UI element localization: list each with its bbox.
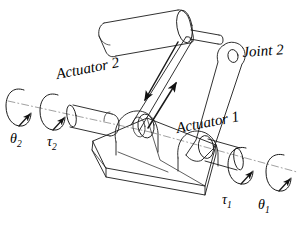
right-shaft [205, 139, 245, 171]
label-joint-2: Joint 2 [242, 41, 284, 61]
payload-cylinder [99, 9, 195, 57]
tau-2-subscript: 2 [52, 142, 57, 152]
left-shaft [65, 104, 119, 136]
label-tau-2: τ2 [47, 134, 57, 152]
joint-2-hole [227, 49, 239, 64]
upper-shaft [190, 30, 223, 44]
right-bearing-boss [178, 131, 218, 171]
tau2-rotation-arrow [40, 94, 65, 130]
label-tau-1: τ1 [222, 192, 232, 210]
mechanism-diagram: Actuator 2 Actuator 1 Joint 2 θ2 τ2 τ1 θ… [0, 0, 305, 232]
theta-2-symbol: θ [10, 131, 17, 146]
tau1-rotation-arrow [228, 147, 253, 184]
theta2-rotation-arrow [6, 89, 31, 126]
theta1-rotation-arrow [266, 154, 291, 191]
theta-1-symbol: θ [258, 197, 265, 212]
label-theta-2: θ2 [10, 131, 22, 149]
tau-1-subscript: 1 [227, 200, 232, 210]
axis-2-centerline [8, 101, 150, 132]
theta-1-subscript: 1 [265, 205, 270, 215]
theta-2-subscript: 2 [17, 139, 22, 149]
label-theta-1: θ1 [258, 197, 270, 215]
